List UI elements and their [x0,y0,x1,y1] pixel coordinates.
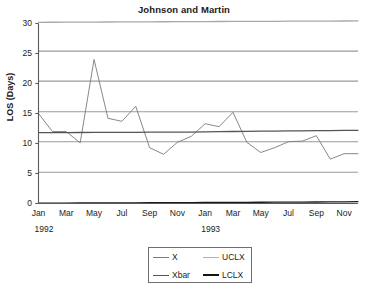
chart-container: Johnson and Martin LOS (Days) 0510152025… [0,0,368,296]
legend-label-lclx: LCLX [222,270,243,280]
series-line-xbar [39,130,359,132]
legend-item-lclx[interactable]: LCLX [199,270,253,280]
axis-lines [35,24,358,204]
legend-label-x: X [172,252,178,262]
legend-swatch-uclx-icon [203,257,219,258]
series-line-x [39,60,359,160]
legend: XUCLXXbarLCLX [148,247,252,283]
legend-swatch-lclx-icon [203,274,219,276]
legend-item-xbar[interactable]: Xbar [149,270,199,280]
legend-item-x[interactable]: X [149,252,199,262]
legend-swatch-x-icon [153,257,169,258]
legend-label-xbar: Xbar [172,270,190,280]
series-line-uclx [39,21,359,23]
gridlines [39,51,359,172]
legend-label-uclx: UCLX [222,252,245,262]
legend-item-uclx[interactable]: UCLX [199,252,253,262]
legend-swatch-xbar-icon [153,275,169,276]
